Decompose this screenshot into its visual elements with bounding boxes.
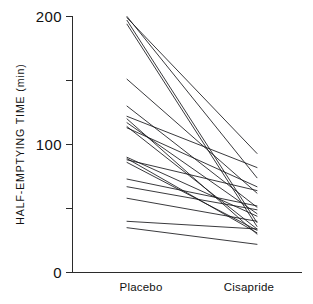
data-line [127, 160, 257, 191]
y-axis-ticks [66, 17, 73, 273]
data-line [127, 228, 257, 245]
paired-line-chart: 200 100 0 HALF-EMPTYING TIME (min) Place… [0, 0, 313, 304]
data-line [127, 17, 257, 178]
data-line [127, 221, 257, 229]
data-line-group [127, 17, 257, 245]
data-line [127, 157, 257, 216]
y-tick-label-200: 200 [36, 8, 62, 25]
y-tick-label-0: 0 [53, 264, 62, 281]
y-axis-title: HALF-EMPTYING TIME (min) [14, 63, 26, 224]
y-tick-label-100: 100 [36, 136, 62, 153]
data-line [127, 187, 257, 210]
data-line [127, 18, 257, 154]
chart-figure: 200 100 0 HALF-EMPTYING TIME (min) Place… [0, 0, 313, 304]
x-category-label-cisapride: Cisapride [224, 281, 274, 293]
x-category-label-placebo: Placebo [120, 281, 163, 293]
